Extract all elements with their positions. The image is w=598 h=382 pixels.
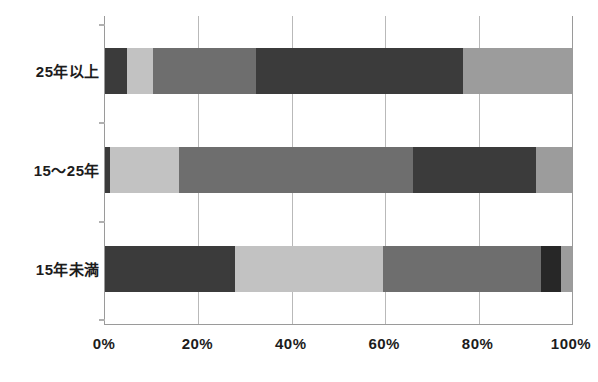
bar-segment [541,246,561,292]
y-axis-category-label: 15〜25年 [8,159,100,180]
bar-segment [105,48,127,94]
y-axis-tick [99,319,105,321]
bar-segment [413,147,536,193]
bar-segment [561,246,572,292]
bar-segment [536,147,572,193]
bar-segment [235,246,383,292]
y-axis-tick [99,221,105,223]
bar-segment [153,48,256,94]
y-axis-category-label: 15年未満 [8,258,100,279]
y-axis-tick [99,122,105,124]
bar-segment [179,147,413,193]
plot-area [104,16,573,325]
bar-row [105,48,572,94]
bar-segment [383,246,541,292]
x-axis-tick-label: 40% [256,335,326,352]
bar-segment [127,48,153,94]
y-axis-category-label: 25年以上 [8,60,100,81]
x-axis-tick-label: 0% [69,335,139,352]
bar-segment [110,147,179,193]
bar-segment [256,48,463,94]
bar-segment [463,48,572,94]
bar-row [105,147,572,193]
x-axis-tick-label: 100% [536,335,598,352]
y-axis-tick [99,24,105,26]
x-axis-tick-label: 80% [443,335,513,352]
stacked-bar-chart: 25年以上15〜25年15年未満 0%20%40%60%80%100% [0,0,598,382]
x-axis-tick-label: 20% [162,335,232,352]
x-axis-tick-label: 60% [349,335,419,352]
bar-segment [105,246,235,292]
bar-row [105,246,572,292]
